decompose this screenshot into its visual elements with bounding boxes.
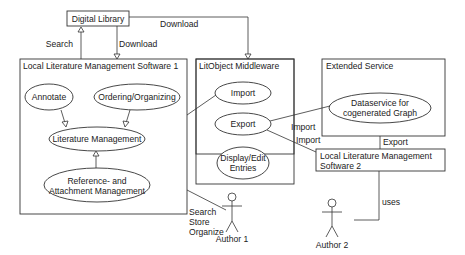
download-edge-left-label: Download xyxy=(119,39,157,49)
arrowhead-icon xyxy=(114,54,120,59)
actor-icon xyxy=(228,193,236,201)
export-ext-label: Export xyxy=(383,137,408,147)
use-case-ordering-label: Ordering/Organizing xyxy=(98,92,176,102)
lms2-label-line1: Local Literature Management xyxy=(320,151,432,161)
use-case-dataservice-label-line1: Dataservice for xyxy=(351,98,409,108)
digital-library-label: Digital Library xyxy=(72,14,125,24)
arrowhead-icon xyxy=(245,54,251,59)
author1-edge-label-line2: Store xyxy=(189,217,210,227)
author2-label: Author 2 xyxy=(316,240,349,250)
litobject-title: LitObject Middleware xyxy=(199,61,279,71)
author2-actor: Author 2 xyxy=(316,199,349,250)
use-case-dataservice-label-line2: cogenerated Graph xyxy=(343,108,417,118)
arrowhead-icon xyxy=(78,27,84,32)
use-case-export-label: Export xyxy=(231,119,256,129)
use-case-reference-label-line2: Attachment Management xyxy=(49,186,146,196)
import-lms2-label: Import xyxy=(296,135,321,145)
lms1-title: Local Literature Management Software 1 xyxy=(23,61,178,71)
author1-edge-label-line3: Organize xyxy=(189,227,224,237)
download-edge-top: Download xyxy=(129,17,251,59)
use-case-display-label-line2: Entries xyxy=(230,163,257,173)
use-case-import-label: Import xyxy=(231,88,256,98)
download-edge-left: Download xyxy=(114,26,157,59)
actor-icon xyxy=(328,199,336,207)
use-case-literature-management-label: Literature Management xyxy=(53,134,142,144)
uses-association xyxy=(354,171,379,220)
author1-edge-label-line1: Search xyxy=(189,207,216,217)
use-case-diagram: Digital Library Search Download Download… xyxy=(0,0,465,255)
lms2-label-line2: Software 2 xyxy=(320,161,361,171)
lms2-node: Local Literature Management Software 2 xyxy=(316,149,445,171)
use-case-annotate-label: Annotate xyxy=(32,92,67,102)
use-case-display-label-line1: Display/Edit xyxy=(220,153,266,163)
lms1-container: Local Literature Management Software 1 A… xyxy=(20,59,187,214)
import-ext-label: Import xyxy=(291,122,316,132)
use-case-reference-label-line1: Reference- and xyxy=(67,176,126,186)
search-edge-label: Search xyxy=(46,39,73,49)
uses-label: uses xyxy=(382,197,400,207)
extended-service-container: Extended Service Dataservice for cogener… xyxy=(322,59,445,136)
digital-library-node: Digital Library xyxy=(67,11,129,26)
extended-service-title: Extended Service xyxy=(326,61,394,71)
search-edge: Search xyxy=(46,27,84,59)
download-edge-top-label: Download xyxy=(160,19,198,29)
